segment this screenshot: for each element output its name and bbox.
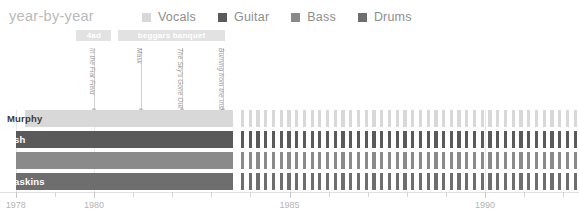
- activity-stripe: [527, 173, 530, 190]
- activity-stripe: [357, 110, 360, 127]
- legend-item-drums[interactable]: Drums: [358, 10, 412, 24]
- activity-stripe: [341, 173, 344, 190]
- activity-stripe: [427, 173, 430, 190]
- legend-item-bass[interactable]: Bass: [291, 10, 336, 24]
- activity-stripe: [527, 152, 530, 169]
- activity-stripe: [303, 110, 306, 127]
- activity-stripe: [280, 131, 283, 148]
- activity-stripe: [427, 152, 430, 169]
- axis-tick-major: [485, 192, 486, 198]
- activity-stripe: [543, 173, 546, 190]
- activity-stripe: [295, 110, 298, 127]
- page-title: year-by-year: [9, 8, 94, 24]
- activity-stripe: [311, 110, 314, 127]
- activity-stripe: [457, 173, 460, 190]
- activity-stripe: [280, 173, 283, 190]
- axis-tick-minor: [55, 192, 56, 197]
- activity-stripe: [396, 110, 399, 127]
- activity-stripe: [442, 110, 445, 127]
- activity-stripe: [403, 131, 406, 148]
- activity-stripe: [365, 131, 368, 148]
- activity-stripe: [574, 152, 577, 169]
- activity-stripe: [488, 110, 491, 127]
- legend-item-label: Bass: [307, 10, 336, 24]
- activity-stripe: [341, 152, 344, 169]
- activity-stripe: [434, 173, 437, 190]
- activity-stripe: [388, 131, 391, 148]
- activity-stripe: [349, 110, 352, 127]
- activity-stripe: [496, 110, 499, 127]
- timeline-row[interactable]: Ash: [0, 131, 579, 148]
- activity-stripe: [287, 152, 290, 169]
- activity-stripe: [473, 131, 476, 148]
- activity-stripe: [249, 110, 252, 127]
- activity-stripe: [341, 131, 344, 148]
- activity-stripe: [550, 173, 553, 190]
- activity-stripe: [380, 131, 383, 148]
- activity-stripe: [496, 152, 499, 169]
- timeline-row[interactable]: J: [0, 152, 579, 169]
- activity-stripe: [264, 131, 267, 148]
- activity-stripe: [303, 152, 306, 169]
- activity-stripe: [287, 110, 290, 127]
- activity-stripe: [311, 152, 314, 169]
- axis-tick-minor: [368, 192, 369, 197]
- activity-stripe: [334, 110, 337, 127]
- activity-span: [16, 173, 233, 190]
- activity-stripe: [365, 152, 368, 169]
- axis-tick-minor: [211, 192, 212, 197]
- legend-item-label: Guitar: [234, 10, 269, 24]
- row-label-haskins: Haskins: [7, 173, 45, 190]
- activity-stripe: [256, 173, 259, 190]
- activity-stripe: [280, 152, 283, 169]
- activity-stripe: [558, 131, 561, 148]
- activity-stripe: [543, 110, 546, 127]
- axis-tick-minor: [250, 192, 251, 197]
- activity-stripe: [403, 110, 406, 127]
- activity-stripe: [543, 131, 546, 148]
- era-bar[interactable]: 4ad: [76, 30, 111, 41]
- timeline-row[interactable]: Murphy: [0, 110, 579, 127]
- activity-stripe: [519, 173, 522, 190]
- activity-stripe: [411, 131, 414, 148]
- activity-stripe: [427, 131, 430, 148]
- activity-stripe: [357, 173, 360, 190]
- legend-item-guitar[interactable]: Guitar: [218, 10, 269, 24]
- activity-stripe: [272, 131, 275, 148]
- activity-stripe: [465, 131, 468, 148]
- activity-stripe: [256, 152, 259, 169]
- axis-tick-minor: [446, 192, 447, 197]
- axis-tick-minor: [172, 192, 173, 197]
- activity-stripe: [488, 152, 491, 169]
- era-bar[interactable]: beggars banquet: [118, 30, 225, 41]
- activity-stripe: [396, 152, 399, 169]
- row-label-j: J: [7, 152, 12, 169]
- timeline-row[interactable]: Haskins: [0, 173, 579, 190]
- activity-stripe: [504, 173, 507, 190]
- activity-span: [16, 152, 233, 169]
- row-label-murphy: Murphy: [7, 110, 43, 127]
- activity-stripe: [527, 131, 530, 148]
- activity-stripe: [295, 173, 298, 190]
- activity-stripe: [256, 110, 259, 127]
- activity-stripe: [388, 173, 391, 190]
- activity-stripe: [558, 110, 561, 127]
- activity-stripe: [519, 110, 522, 127]
- legend-item-vocals[interactable]: Vocals: [142, 10, 196, 24]
- activity-stripe: [256, 131, 259, 148]
- activity-stripe: [295, 152, 298, 169]
- activity-stripe: [287, 173, 290, 190]
- legend-item-label: Drums: [374, 10, 412, 24]
- activity-stripe: [241, 152, 244, 169]
- activity-stripe: [365, 110, 368, 127]
- activity-stripe: [465, 152, 468, 169]
- activity-stripe-zone: [239, 152, 579, 169]
- activity-stripe: [241, 173, 244, 190]
- era-bar-label: 4ad: [87, 31, 101, 40]
- activity-stripe: [473, 173, 476, 190]
- activity-stripe: [419, 131, 422, 148]
- activity-stripe: [388, 110, 391, 127]
- activity-stripe: [287, 131, 290, 148]
- activity-stripe: [372, 173, 375, 190]
- activity-stripe: [457, 152, 460, 169]
